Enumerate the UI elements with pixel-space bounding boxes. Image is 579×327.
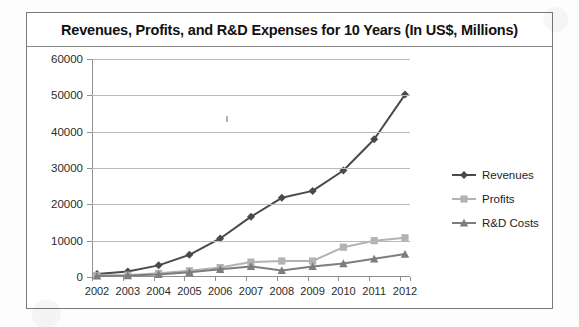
x-axis-tick [215,277,216,281]
legend-item-revenues[interactable]: Revenues [451,163,539,187]
data-point-marker [340,244,347,251]
x-axis-tick-label: 2008 [270,285,294,297]
x-axis-tick [246,277,247,281]
chart-title: Revenues, Profits, and R&D Expenses for … [61,22,518,38]
legend-label: R&D Costs [482,217,539,229]
x-axis-tick-label: 2011 [362,285,386,297]
gridline [92,132,410,133]
y-axis-tick [87,132,92,133]
x-axis-tick-label: 2006 [208,285,232,297]
data-point-marker [155,261,163,269]
legend-diamond-icon [451,169,477,181]
legend-label: Revenues [482,169,534,181]
y-axis-tick-label: 50000 [51,89,83,101]
x-axis-tick-label: 2012 [393,285,417,297]
gridline [92,168,410,169]
plot-wrapper: 0100002000030000400005000060000200220032… [27,47,554,309]
gridline [92,95,410,96]
x-axis-tick [308,277,309,281]
legend-triangle-icon [451,217,477,229]
legend-item-r-d-costs[interactable]: R&D Costs [451,211,539,235]
y-axis-tick [87,241,92,242]
screenshot-root: Revenues, Profits, and R&D Expenses for … [0,0,579,327]
y-axis-tick-label: 60000 [51,53,83,65]
y-axis-tick [87,59,92,60]
x-axis-tick-label: 2009 [300,285,324,297]
y-axis-tick [87,204,92,205]
gridline [92,241,410,242]
scan-artifact [226,116,228,122]
x-axis-tick [154,277,155,281]
gridline [92,204,410,205]
y-axis-tick [87,95,92,96]
y-axis-tick-label: 30000 [51,162,83,174]
y-axis-tick-label: 40000 [51,126,83,138]
data-point-marker [278,257,285,264]
gridline [92,59,410,60]
series-r-d-costs [93,250,409,280]
legend-square-icon [451,193,477,205]
y-axis-tick-label: 20000 [51,198,83,210]
y-axis-tick-label: 10000 [51,235,83,247]
x-axis-tick-label: 2002 [85,285,109,297]
chart-legend: RevenuesProfitsR&D Costs [451,163,539,235]
data-point-marker [460,171,468,179]
series-line [97,95,405,274]
x-axis-tick-label: 2005 [177,285,201,297]
chart-title-bar: Revenues, Profits, and R&D Expenses for … [27,13,552,47]
y-axis-tick-label: 0 [77,271,83,283]
x-axis-tick [400,277,401,281]
x-axis-tick [338,277,339,281]
x-axis-tick-label: 2003 [116,285,140,297]
x-axis-tick [277,277,278,281]
y-axis-tick [87,168,92,169]
x-axis-tick-label: 2010 [331,285,355,297]
legend-item-profits[interactable]: Profits [451,187,539,211]
x-axis-tick [123,277,124,281]
data-point-marker [460,195,467,202]
x-axis-tick-label: 2007 [239,285,263,297]
series-revenues [93,91,409,278]
data-point-marker [185,251,193,259]
x-axis-tick [92,277,93,281]
x-axis-tick [369,277,370,281]
chart-figure: Revenues, Profits, and R&D Expenses for … [26,12,553,309]
x-axis-tick-label: 2004 [146,285,170,297]
x-axis-tick [184,277,185,281]
plot-area: 0100002000030000400005000060000200220032… [92,59,410,277]
x-axis-tick [410,277,411,281]
legend-label: Profits [482,193,515,205]
